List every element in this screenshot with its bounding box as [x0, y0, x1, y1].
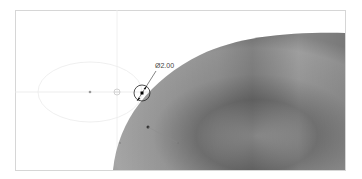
cad-viewport[interactable]: Ø2.00: [0, 0, 362, 179]
vertex-point[interactable]: [119, 142, 121, 144]
dimension-label[interactable]: Ø2.00: [155, 62, 174, 69]
center-point[interactable]: [89, 91, 92, 94]
dimension-center-marker: [141, 92, 144, 95]
